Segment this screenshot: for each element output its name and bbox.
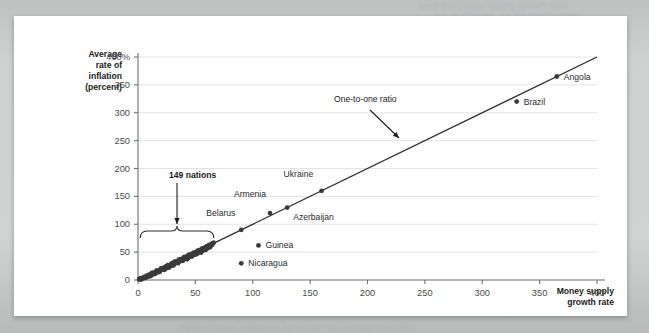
- point-label-ukraine: Ukraine: [284, 169, 314, 179]
- x-tick-label: 0: [118, 288, 158, 298]
- point-label-belarus: Belarus: [206, 208, 235, 218]
- x-tick-label: 200: [348, 288, 388, 298]
- point-label-angola: Angola: [564, 72, 591, 82]
- annotation-one-to-one-ratio: One-to-one ratio: [334, 94, 397, 104]
- cluster-bracket: [140, 226, 213, 238]
- point-label-brazil: Brazil: [524, 97, 546, 107]
- x-tick-label: 400: [577, 288, 617, 298]
- x-tick-label: 250: [405, 288, 445, 298]
- point-label-armenia: Armenia: [234, 189, 266, 199]
- y-tick-label: 250: [90, 136, 130, 146]
- y-tick-label: 150: [90, 191, 130, 201]
- y-tick-label: 50: [90, 247, 130, 257]
- annotation-149-nations: 149 nations: [169, 170, 216, 180]
- screenshot-root: held the money supply growth rate rate o…: [0, 0, 649, 333]
- x-tick-label: 100: [233, 288, 273, 298]
- y-tick-label: 350: [90, 80, 130, 90]
- x-tick-label: 50: [175, 288, 215, 298]
- y-tick-label: 0: [90, 275, 130, 285]
- x-tick-label: 300: [462, 288, 502, 298]
- y-tick-label: 100: [90, 219, 130, 229]
- gridlines: [138, 57, 597, 252]
- point-label-azerbaijan: Azerbaijan: [293, 212, 334, 222]
- x-tick-label: 350: [520, 288, 560, 298]
- background-ghost-text-4: hyperinflation countries lie on the one-…: [180, 322, 600, 332]
- point-label-nicaragua: Nicaragua: [248, 258, 287, 268]
- y-tick-label: 300: [90, 108, 130, 118]
- y-tick-label: 400%: [90, 52, 130, 62]
- figure-card: Average rate of inflation (percent) Mone…: [14, 16, 627, 316]
- point-label-guinea: Guinea: [265, 240, 293, 250]
- x-tick-label: 150: [290, 288, 330, 298]
- y-tick-label: 200: [90, 164, 130, 174]
- cluster-points: [137, 240, 216, 281]
